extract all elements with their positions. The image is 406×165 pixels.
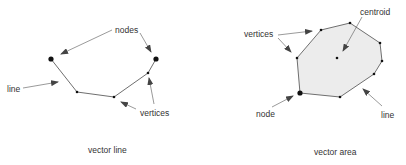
arrow-vertices-top bbox=[278, 31, 312, 35]
vertex-point bbox=[349, 22, 352, 25]
caption-vector-area: vector area bbox=[314, 147, 357, 157]
centroid-point bbox=[336, 57, 339, 60]
node-point bbox=[48, 56, 53, 61]
vertex-point bbox=[113, 96, 116, 99]
arrow-node bbox=[272, 96, 293, 107]
arrow-vertices-2 bbox=[149, 78, 154, 104]
node-point bbox=[297, 90, 302, 95]
vector-area-polygon bbox=[297, 23, 382, 97]
arrow-vertices-1 bbox=[121, 102, 136, 109]
label-centroid: centroid bbox=[360, 7, 391, 17]
label-line: line bbox=[7, 84, 21, 94]
label-nodes: nodes bbox=[115, 25, 138, 35]
vertex-point bbox=[381, 60, 384, 63]
vertex-point bbox=[373, 73, 376, 76]
caption-vector-line: vector line bbox=[88, 145, 127, 155]
vertex-point bbox=[76, 91, 79, 94]
vector-line-panel: nodes line vertices vector line bbox=[7, 25, 169, 155]
label-vertices: vertices bbox=[140, 108, 169, 118]
label-vertices: vertices bbox=[244, 29, 273, 39]
vector-line bbox=[51, 59, 156, 97]
arrow-nodes-right bbox=[140, 33, 151, 52]
vertex-point bbox=[320, 29, 323, 32]
vertex-point bbox=[379, 42, 382, 45]
arrow-vertices-left bbox=[278, 38, 291, 52]
arrow-line bbox=[23, 82, 58, 88]
vertex-point bbox=[339, 96, 342, 99]
label-node: node bbox=[256, 109, 275, 119]
arrow-line bbox=[363, 89, 382, 106]
vertex-point bbox=[296, 57, 299, 60]
vector-area-panel: vertices centroid node line vector area bbox=[244, 7, 395, 157]
label-line: line bbox=[381, 110, 395, 120]
vertex-point bbox=[147, 72, 150, 75]
arrow-nodes-left bbox=[61, 30, 112, 54]
vector-diagram: nodes line vertices vector line vertices… bbox=[0, 0, 406, 165]
node-point bbox=[153, 56, 158, 61]
